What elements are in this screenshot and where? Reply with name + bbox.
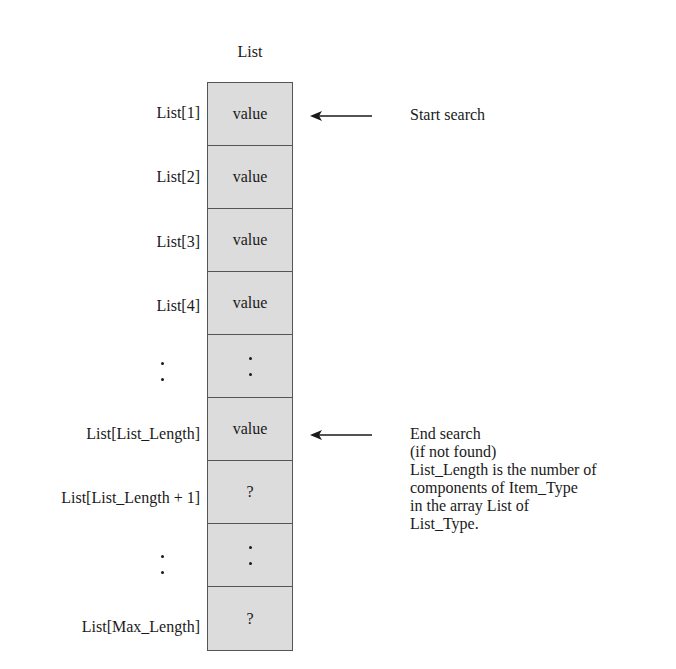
cell-value: ?	[246, 483, 253, 501]
note-line: components of Item_Type	[410, 479, 597, 497]
cell-value: value	[233, 294, 268, 312]
cell-value: value	[233, 231, 268, 249]
array-title: List	[207, 43, 293, 61]
index-label: List[1]	[156, 104, 200, 122]
index-label: List[List_Length]	[86, 425, 200, 443]
array-cell: value	[208, 83, 292, 146]
array-cell: ?	[208, 587, 292, 650]
cell-value: value	[233, 168, 268, 186]
index-ellipsis	[161, 362, 164, 381]
index-label: List[3]	[156, 233, 200, 251]
end-search-arrow	[310, 428, 374, 442]
array-cell-ellipsis	[208, 335, 292, 398]
cell-value: value	[233, 105, 268, 123]
note-line: List_Type.	[410, 515, 597, 533]
note-line: End search	[410, 425, 597, 443]
array-cell-ellipsis	[208, 524, 292, 587]
cell-value: ?	[246, 610, 253, 628]
ellipsis-dots	[249, 546, 252, 565]
note-line: List_Length is the number of	[410, 461, 597, 479]
array-cell: value	[208, 272, 292, 335]
array-box: valuevaluevaluevaluevalue??	[207, 82, 293, 651]
index-label: List[List_Length + 1]	[61, 489, 200, 507]
ellipsis-dots	[249, 357, 252, 376]
index-ellipsis	[161, 555, 164, 574]
note-line: (if not found)	[410, 443, 597, 461]
cell-value: value	[233, 420, 268, 438]
array-cell: ?	[208, 461, 292, 524]
array-cell: value	[208, 146, 292, 209]
index-label: List[4]	[156, 297, 200, 315]
start-search-note: Start search	[410, 106, 485, 124]
array-cell: value	[208, 209, 292, 272]
array-cell: value	[208, 398, 292, 461]
note-line: Start search	[410, 106, 485, 124]
start-search-arrow	[310, 109, 374, 123]
index-label: List[Max_Length]	[82, 618, 200, 636]
end-search-note: End search(if not found)List_Length is t…	[410, 425, 597, 533]
note-line: in the array List of	[410, 497, 597, 515]
index-label: List[2]	[156, 168, 200, 186]
